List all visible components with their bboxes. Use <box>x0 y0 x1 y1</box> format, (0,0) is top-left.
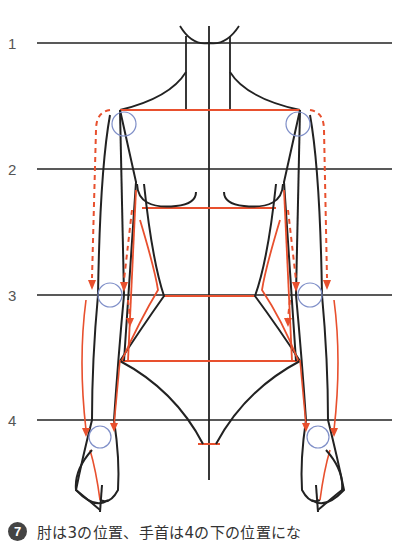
caption-text: 肘は3の位置、手首は4の下の位置にな <box>37 521 302 542</box>
neck-outline <box>120 26 300 110</box>
row-label-3: 3 <box>8 288 16 303</box>
torso-outline <box>120 110 300 444</box>
step-caption: 7 肘は3の位置、手首は4の下の位置にな <box>8 521 302 541</box>
row-label-2: 2 <box>8 162 16 177</box>
arrow-heads <box>82 280 338 437</box>
step-number-badge: 7 <box>8 522 27 541</box>
figure-proportion-diagram <box>0 0 405 515</box>
row-label-1: 1 <box>8 36 16 51</box>
row-label-4: 4 <box>8 413 16 428</box>
